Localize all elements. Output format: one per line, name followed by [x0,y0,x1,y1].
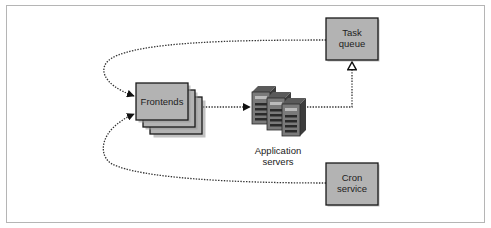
cron-service-label-line1: Cron [342,172,363,183]
app-servers-label-line2: servers [262,156,293,167]
frontends-label: Frontends [141,96,184,107]
architecture-diagram: Frontends [0,0,491,228]
cron-service-label-line2: service [337,183,367,194]
task-queue-node: Task queue [326,18,380,62]
diagram-frame [7,6,485,223]
task-queue-label-line2: queue [339,38,365,49]
server-icon [282,98,306,136]
cron-service-node: Cron service [326,163,380,207]
app-servers-label-line1: Application [255,145,301,156]
task-queue-label-line1: Task [342,27,362,38]
frontends-node: Frontends [136,83,206,138]
